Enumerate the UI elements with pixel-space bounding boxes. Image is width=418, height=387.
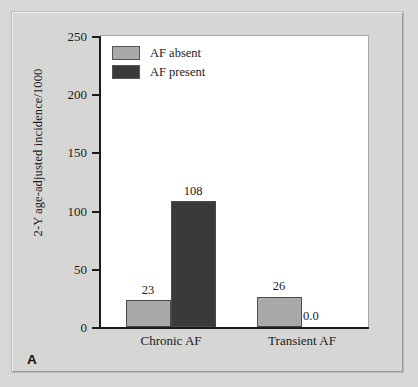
y-tick-label: 50 xyxy=(41,263,87,276)
y-tick-label: 250 xyxy=(41,30,87,43)
y-tick-mark xyxy=(92,36,99,38)
legend-label: AF absent xyxy=(150,46,201,60)
y-axis-title: 2-Y age-adjusted incidence/1000 xyxy=(31,53,46,253)
x-axis-spine xyxy=(99,327,369,329)
bar-value-label: 23 xyxy=(118,284,178,297)
y-tick-label: 200 xyxy=(41,88,87,101)
bar-value-label-zero: 0.0 xyxy=(303,310,343,323)
y-tick-label: 0 xyxy=(41,321,87,334)
bar-value-label: 26 xyxy=(249,280,309,293)
y-tick-label: 150 xyxy=(41,146,87,159)
legend: AF absent AF present xyxy=(112,46,205,84)
plot-border-right xyxy=(368,35,369,328)
panel-letter: A xyxy=(27,352,37,367)
legend-swatch-icon xyxy=(112,65,140,79)
bar-transient-af-absent xyxy=(257,297,302,327)
y-tick-mark xyxy=(92,152,99,154)
bar-chronic-af-absent xyxy=(126,300,171,327)
x-category-label-chronic: Chronic AF xyxy=(113,334,229,348)
legend-label: AF present xyxy=(150,65,205,79)
figure-root: 250 200 150 100 50 0 2-Y age-adjusted in… xyxy=(0,0,418,387)
y-tick-mark xyxy=(92,269,99,271)
y-tick-mark xyxy=(92,327,99,329)
y-axis-spine xyxy=(99,36,101,329)
bar-value-label: 108 xyxy=(163,185,223,198)
y-tick-mark xyxy=(92,94,99,96)
plot-border-top xyxy=(100,35,369,36)
legend-item-af-absent: AF absent xyxy=(112,46,205,60)
legend-item-af-present: AF present xyxy=(112,65,205,79)
y-tick-label: 100 xyxy=(41,205,87,218)
legend-swatch-icon xyxy=(112,46,140,60)
x-category-label-transient: Transient AF xyxy=(244,334,360,348)
y-tick-mark xyxy=(92,211,99,213)
bar-chronic-af-present xyxy=(171,201,216,327)
